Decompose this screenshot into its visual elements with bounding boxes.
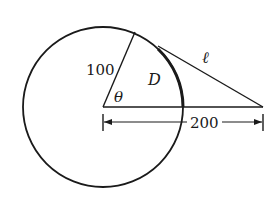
distance-label: 200	[190, 114, 219, 132]
region-label: D	[147, 70, 161, 89]
arrow-right-icon	[254, 119, 262, 125]
tangent-label: ℓ	[202, 48, 209, 67]
geometry-diagram: 100 θ D ℓ 200	[0, 0, 279, 202]
radius-label: 100	[86, 61, 115, 79]
angle-label: θ	[114, 88, 123, 106]
arrow-left-icon	[104, 119, 112, 125]
tangent-line	[158, 46, 263, 107]
